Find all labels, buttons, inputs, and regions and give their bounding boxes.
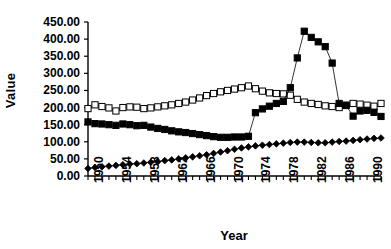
data-point — [147, 159, 154, 166]
data-point — [182, 155, 189, 162]
data-point — [343, 138, 350, 145]
x-axis-title: Year — [84, 228, 384, 243]
data-point — [315, 101, 321, 107]
data-point — [92, 164, 99, 171]
data-point — [231, 86, 237, 92]
data-point — [189, 154, 196, 161]
data-point — [252, 110, 258, 116]
data-point — [204, 92, 210, 98]
data-point — [224, 134, 230, 140]
data-point — [127, 122, 133, 128]
data-point — [238, 134, 244, 140]
data-point — [245, 133, 251, 139]
data-point — [204, 133, 210, 139]
data-point — [231, 134, 237, 140]
data-point — [364, 136, 371, 143]
data-point — [266, 141, 273, 148]
data-point — [169, 128, 175, 134]
data-point — [252, 143, 259, 150]
data-point — [315, 39, 321, 45]
data-point — [308, 100, 314, 106]
data-point — [378, 135, 385, 142]
data-point — [322, 103, 328, 109]
data-point — [162, 103, 168, 109]
data-point — [176, 129, 182, 135]
data-point — [350, 100, 356, 106]
data-point — [127, 161, 134, 168]
data-point — [148, 105, 154, 111]
data-point — [134, 123, 140, 129]
data-point — [176, 100, 182, 106]
data-point — [85, 105, 91, 111]
data-point — [113, 162, 120, 169]
data-point — [266, 103, 272, 109]
data-point — [224, 87, 230, 93]
data-point — [120, 121, 126, 127]
data-point — [92, 121, 98, 127]
data-point — [287, 92, 293, 98]
data-point — [280, 91, 286, 97]
data-point — [99, 121, 105, 127]
data-point — [85, 119, 91, 125]
data-point — [245, 144, 252, 151]
data-point — [224, 147, 231, 154]
data-point — [197, 95, 203, 101]
data-point — [294, 96, 300, 102]
data-point — [266, 90, 272, 96]
data-point — [155, 125, 161, 131]
data-point — [294, 139, 301, 146]
data-point — [301, 28, 307, 34]
data-point — [364, 107, 370, 113]
data-point — [99, 163, 106, 170]
data-point — [378, 113, 384, 119]
data-point — [336, 138, 343, 145]
data-point — [287, 85, 293, 91]
data-point — [127, 104, 133, 110]
data-point — [357, 101, 363, 107]
x-axis-title-text: Year — [220, 228, 247, 243]
data-point — [329, 60, 335, 66]
data-point — [259, 88, 265, 94]
data-point — [371, 103, 377, 109]
data-point — [134, 104, 140, 110]
data-point — [273, 90, 279, 96]
data-point — [120, 104, 126, 110]
data-point — [106, 163, 113, 170]
data-point — [197, 131, 203, 137]
data-point — [231, 146, 238, 153]
chart-container: Value 0.0050.00100.00150.00200.00250.003… — [0, 0, 391, 249]
data-point — [169, 102, 175, 108]
series-open-square-series — [85, 83, 384, 114]
data-point — [217, 149, 224, 156]
data-point — [154, 158, 161, 165]
data-point — [378, 100, 384, 106]
data-point — [280, 98, 286, 104]
data-point — [99, 103, 105, 109]
data-point — [329, 103, 335, 109]
data-point — [322, 140, 329, 147]
data-point — [106, 122, 112, 128]
data-point — [371, 135, 378, 142]
data-point — [217, 134, 223, 140]
series-filled-square-series — [85, 28, 384, 140]
data-point — [113, 108, 119, 114]
data-point — [301, 99, 307, 105]
data-point — [238, 145, 245, 152]
data-point — [238, 85, 244, 91]
data-point — [217, 89, 223, 95]
data-series-layer — [85, 28, 385, 172]
data-point — [196, 153, 203, 160]
data-point — [141, 122, 147, 128]
data-point — [357, 108, 363, 114]
data-point — [315, 140, 322, 147]
data-point — [336, 100, 342, 106]
data-point — [371, 109, 377, 115]
data-point — [210, 134, 216, 140]
data-point — [329, 139, 336, 146]
data-point — [183, 129, 189, 135]
data-point — [308, 139, 315, 146]
data-point — [203, 151, 210, 158]
data-point — [168, 157, 175, 164]
data-point — [92, 102, 98, 108]
data-point — [106, 105, 112, 111]
